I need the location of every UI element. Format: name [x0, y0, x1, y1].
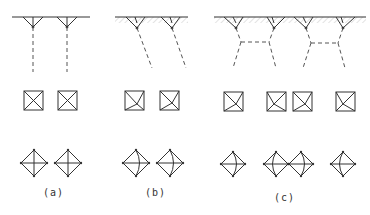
panel-label-c: (c) — [274, 192, 295, 203]
panel-c-surface — [214, 17, 366, 68]
panel-label-b: (b) — [145, 187, 166, 198]
panel-b-surface — [115, 17, 188, 68]
diagram-canvas — [0, 0, 370, 215]
octahedra-row — [21, 150, 355, 176]
cross-squares-row — [24, 91, 355, 111]
panel-a-surface — [12, 17, 90, 72]
panel-label-a: (a) — [43, 187, 64, 198]
